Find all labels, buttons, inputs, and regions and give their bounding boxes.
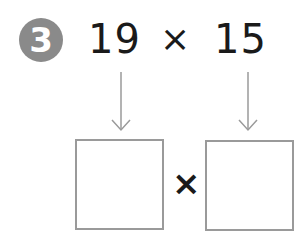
answer-box-right[interactable]	[205, 140, 294, 231]
arrow-down-icon-right	[239, 72, 257, 130]
arrow-down-icon-left	[112, 72, 130, 130]
multiply-sign-bold: ×	[172, 163, 201, 203]
answer-box-left[interactable]	[75, 139, 164, 230]
